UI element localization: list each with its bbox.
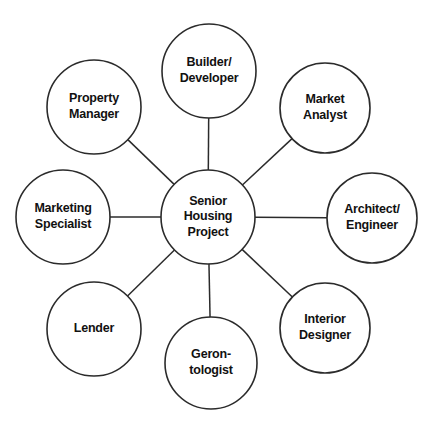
node-label-line: Architect/	[344, 203, 400, 217]
node-marketing-specialist[interactable]: MarketingSpecialist	[16, 170, 110, 264]
node-label-market-analyst: MarketAnalyst	[303, 93, 348, 123]
node-label-interior-designer: InteriorDesigner	[299, 313, 351, 343]
node-label-line: Developer	[180, 71, 239, 85]
node-label-line: Lender	[74, 321, 115, 335]
node-label-property-manager: PropertyManager	[69, 92, 119, 122]
spoke-property-manager	[128, 140, 174, 185]
node-gerontologist[interactable]: Geron-tologist	[165, 317, 257, 409]
node-architect-engineer[interactable]: Architect/Engineer	[327, 173, 417, 263]
spoke-interior-designer	[242, 249, 292, 297]
node-label-senior-housing-project: SeniorHousingProject	[184, 194, 233, 239]
node-property-manager[interactable]: PropertyManager	[47, 60, 141, 154]
node-label-line: Project	[188, 225, 230, 239]
node-label-line: Marketing	[34, 202, 91, 216]
node-label-line: Senior	[189, 194, 227, 208]
node-label-marketing-specialist: MarketingSpecialist	[34, 202, 92, 232]
node-label-line: Housing	[184, 209, 233, 223]
node-label-line: tologist	[189, 363, 234, 377]
nodes-layer: Builder/DeveloperMarketAnalystArchitect/…	[16, 24, 417, 409]
node-builder-developer[interactable]: Builder/Developer	[162, 24, 256, 118]
spoke-gerontologist	[209, 264, 210, 317]
node-label-line: Builder/	[187, 56, 233, 70]
node-label-line: Analyst	[303, 108, 348, 122]
node-label-builder-developer: Builder/Developer	[180, 56, 239, 86]
node-label-line: Property	[69, 92, 119, 106]
node-label-lender: Lender	[74, 321, 115, 335]
node-label-line: Interior	[304, 313, 346, 327]
hub-and-spoke-diagram: Builder/DeveloperMarketAnalystArchitect/…	[0, 0, 433, 430]
node-label-line: Manager	[69, 107, 119, 121]
spoke-lender	[128, 250, 175, 296]
node-label-line: Specialist	[35, 217, 92, 231]
node-interior-designer[interactable]: InteriorDesigner	[280, 283, 370, 373]
node-label-architect-engineer: Architect/Engineer	[344, 203, 400, 233]
node-lender[interactable]: Lender	[47, 282, 141, 376]
node-label-line: Market	[305, 93, 345, 107]
node-senior-housing-project[interactable]: SeniorHousingProject	[161, 170, 255, 264]
node-label-line: Geron-	[191, 348, 231, 362]
node-label-line: Engineer	[346, 218, 398, 232]
node-label-line: Designer	[299, 328, 351, 342]
node-market-analyst[interactable]: MarketAnalyst	[280, 63, 370, 153]
node-label-gerontologist: Geron-tologist	[189, 348, 234, 378]
spoke-market-analyst	[242, 139, 292, 185]
diagram-canvas: Builder/DeveloperMarketAnalystArchitect/…	[0, 0, 433, 430]
